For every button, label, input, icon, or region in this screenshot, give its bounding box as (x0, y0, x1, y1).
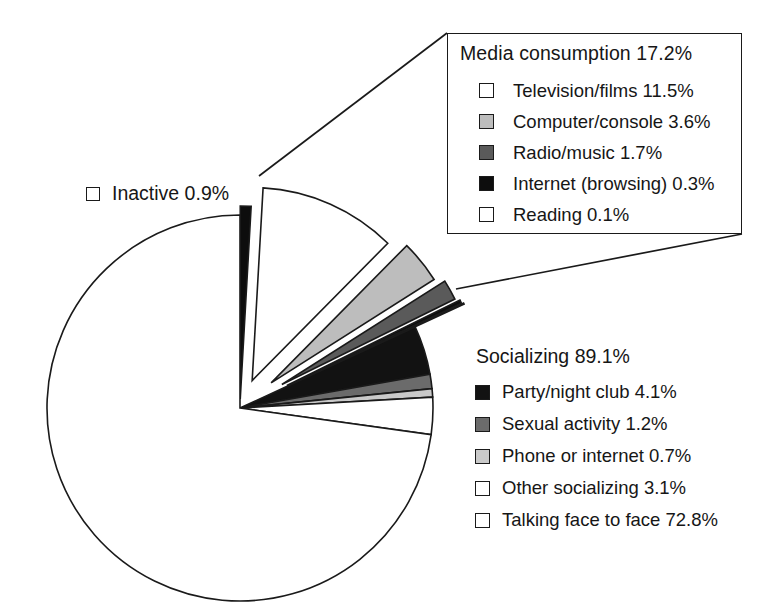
socializing-legend-item-label: Talking face to face 72.8% (502, 509, 718, 531)
socializing-legend-item: Sexual activity 1.2% (430, 408, 770, 440)
socializing-legend: Socializing 89.1% Party/night club 4.1%S… (430, 345, 770, 536)
inactive-swatch-icon (86, 187, 100, 201)
media-legend-item-label: Reading 0.1% (513, 204, 629, 226)
media-legend-item-label: Television/films 11.5% (513, 80, 694, 102)
legend-swatch-icon (475, 513, 490, 528)
media-legend-item: Computer/console 3.6% (479, 106, 715, 137)
media-legend-item: Internet (browsing) 0.3% (479, 168, 715, 199)
legend-swatch-icon (475, 385, 490, 400)
legend-swatch-icon (479, 207, 494, 222)
socializing-legend-item-label: Sexual activity 1.2% (502, 413, 668, 435)
socializing-legend-item: Other socializing 3.1% (430, 472, 770, 504)
media-legend-item-label: Internet (browsing) 0.3% (513, 173, 715, 195)
media-legend-item: Radio/music 1.7% (479, 137, 715, 168)
media-legend-item-label: Computer/console 3.6% (513, 111, 710, 133)
socializing-legend-item-label: Party/night club 4.1% (502, 381, 677, 403)
media-legend-item-label: Radio/music 1.7% (513, 142, 662, 164)
socializing-legend-item-label: Phone or internet 0.7% (502, 445, 691, 467)
legend-swatch-icon (479, 114, 494, 129)
inactive-callout-label: Inactive 0.9% (86, 182, 229, 205)
media-legend-item: Reading 0.1% (479, 199, 715, 230)
socializing-legend-item-label: Other socializing 3.1% (502, 477, 686, 499)
legend-swatch-icon (475, 417, 490, 432)
pie-slice-inactive (240, 206, 251, 399)
callout-line-upper (259, 33, 447, 176)
socializing-legend-item: Phone or internet 0.7% (430, 440, 770, 472)
media-legend-list: Television/films 11.5%Computer/console 3… (479, 75, 715, 230)
socializing-legend-item: Party/night club 4.1% (430, 376, 770, 408)
legend-swatch-icon (479, 176, 494, 191)
legend-swatch-icon (479, 145, 494, 160)
socializing-legend-list: Party/night club 4.1%Sexual activity 1.2… (430, 376, 770, 536)
inactive-label-text: Inactive 0.9% (112, 182, 229, 205)
media-legend-item: Television/films 11.5% (479, 75, 715, 106)
legend-swatch-icon (475, 449, 490, 464)
callout-line-lower (456, 234, 742, 289)
media-legend-title: Media consumption 17.2% (460, 42, 692, 65)
media-consumption-legend-box: Media consumption 17.2% Television/films… (447, 33, 742, 234)
pie-chart-figure: Inactive 0.9% Media consumption 17.2% Te… (0, 0, 773, 612)
legend-swatch-icon (479, 83, 494, 98)
legend-swatch-icon (475, 481, 490, 496)
socializing-legend-item: Talking face to face 72.8% (430, 504, 770, 536)
socializing-legend-title: Socializing 89.1% (476, 345, 770, 368)
